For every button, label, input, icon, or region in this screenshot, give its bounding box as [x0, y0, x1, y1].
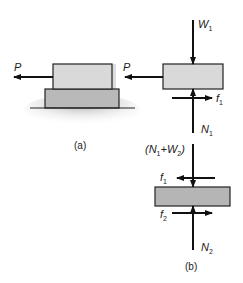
- upper-block-b: [163, 64, 223, 89]
- panel-a: P (a): [14, 61, 140, 151]
- caption-a: (a): [74, 140, 86, 151]
- free-body-diagram: P (a) W1 P f1 N1 (N1+W2) f1 f2 N2 (b): [0, 0, 243, 283]
- force-label-p-b: P: [123, 61, 131, 73]
- panel-b-lower: (N1+W2) f1 f2 N2 (b): [145, 143, 230, 272]
- friction-label-f1-upper: f1: [216, 92, 223, 106]
- normal-label-n2: N2: [201, 241, 213, 255]
- lower-block-b: [155, 187, 230, 206]
- upper-block-a: [53, 64, 112, 89]
- lower-block-a: [45, 89, 119, 108]
- friction-label-f2: f2: [160, 208, 167, 222]
- caption-b: (b): [185, 261, 197, 272]
- panel-b-upper: W1 P f1 N1: [123, 18, 223, 137]
- load-label-n1-plus-w2: (N1+W2): [145, 143, 185, 157]
- normal-label-n1: N1: [201, 123, 213, 137]
- force-label-p-a: P: [14, 61, 22, 73]
- weight-label-w1: W1: [198, 18, 212, 32]
- friction-label-f1-lower: f1: [160, 171, 167, 185]
